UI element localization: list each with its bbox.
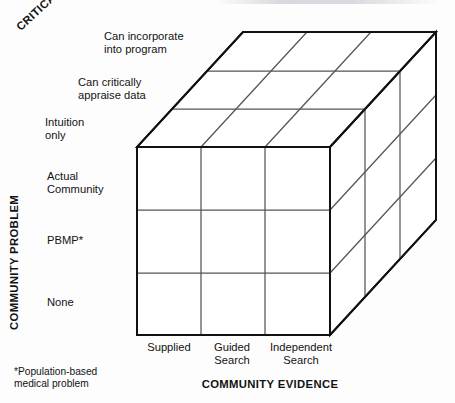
cube-front-face	[137, 147, 330, 335]
y-tick-none: None	[47, 296, 157, 309]
axis-title-community-problem: COMMUNITY PROBLEM	[8, 150, 21, 330]
axis-title-community-evidence: COMMUNITY EVIDENCE	[160, 378, 380, 391]
figure-canvas: CRITICAL ANALYSIS Can incorporate into p…	[0, 0, 455, 403]
y-tick-pbmp: PBMP*	[47, 234, 157, 247]
footnote-pbmp: *Population-based medical problem	[14, 366, 144, 390]
z-tick-can-critically-appraise: Can critically appraise data	[78, 76, 198, 102]
y-tick-actual-community: Actual Community	[47, 170, 157, 196]
z-tick-intuition-only: Intuition only	[45, 116, 155, 142]
x-tick-independent-search: Independent Search	[258, 341, 344, 367]
z-tick-can-incorporate: Can incorporate into program	[104, 30, 224, 56]
